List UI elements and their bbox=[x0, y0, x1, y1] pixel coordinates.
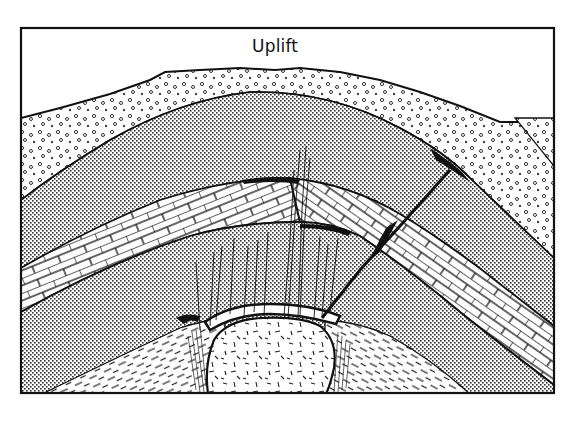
uplift-label: Uplift bbox=[252, 36, 298, 56]
igneous-intrusion bbox=[207, 318, 335, 394]
geologic-cross-section bbox=[0, 0, 570, 427]
